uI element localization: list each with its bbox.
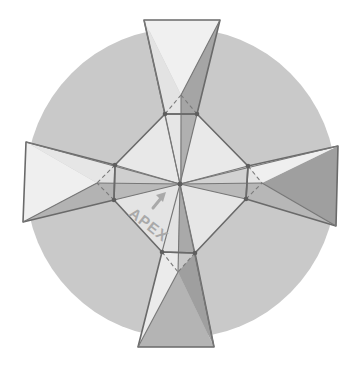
- apex-fold-diagram: APEX: [0, 0, 364, 374]
